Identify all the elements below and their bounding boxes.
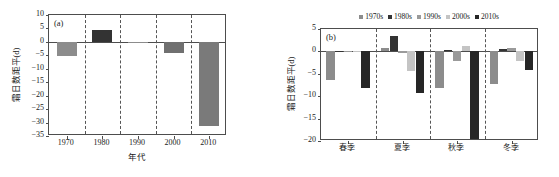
y-tick-label: −15 [294, 114, 316, 122]
bar-1980s-秋季 [444, 50, 452, 51]
bar-1990s-冬季 [507, 48, 515, 51]
legend-swatch-icon [446, 15, 450, 19]
x-tick-label: 1980 [84, 139, 120, 147]
x-tick-label: 春季 [320, 144, 375, 152]
panel-label-b: (b) [326, 32, 336, 42]
y-tick-label: −10 [22, 64, 44, 72]
category-separator [85, 15, 86, 134]
y-axis-label-b: 霜日数距平(d) [284, 28, 296, 140]
bar-2010s-冬季 [525, 51, 533, 70]
x-tick-label: 2000 [155, 139, 191, 147]
x-tick-label: 秋季 [429, 144, 484, 152]
bar-2000s-春季 [353, 51, 361, 52]
y-tick-label: 10 [22, 10, 44, 18]
plot-clip-a [49, 15, 225, 134]
y-tick-label: −30 [22, 118, 44, 126]
bar-2000 [164, 42, 184, 54]
category-separator [376, 29, 377, 139]
y-tick-label: −35 [22, 131, 44, 139]
bar-1980s-冬季 [499, 49, 507, 52]
legend-label: 1970s [365, 13, 383, 21]
chart-panel-b: 1970s1980s1990s2000s2010s 霜日数距平(d) (b) 5… [280, 0, 559, 177]
legend-item-2000s[interactable]: 2000s [446, 13, 470, 21]
y-tick-label: −5 [294, 69, 316, 77]
legend-swatch-icon [475, 15, 479, 19]
bar-2010s-秋季 [470, 51, 478, 139]
x-tick-label: 1990 [119, 139, 155, 147]
x-tick-label: 冬季 [484, 144, 539, 152]
y-tick-mark [318, 96, 321, 97]
bar-1970 [57, 42, 77, 57]
plot-area-b [320, 28, 538, 140]
bar-1970s-秋季 [435, 51, 443, 88]
legend-swatch-icon [388, 15, 392, 19]
legend-item-2010s[interactable]: 2010s [475, 13, 499, 21]
y-tick-mark [46, 42, 49, 43]
y-tick-mark [46, 96, 49, 97]
y-tick-label: −20 [294, 136, 316, 144]
bar-2010s-春季 [361, 51, 369, 88]
bar-1980 [92, 30, 112, 42]
x-tick-label: 2010 [190, 139, 226, 147]
y-tick-mark [46, 69, 49, 70]
plot-area-a [48, 14, 226, 135]
bar-1990s-秋季 [453, 51, 461, 60]
category-separator [485, 29, 486, 139]
legend-swatch-icon [417, 15, 421, 19]
bar-2000s-冬季 [516, 51, 524, 61]
y-tick-label: −25 [22, 104, 44, 112]
bar-1970s-夏季 [381, 48, 389, 52]
y-tick-mark [46, 123, 49, 124]
bar-2000s-夏季 [407, 51, 415, 70]
chart-panel-a: 霜日数距平(d) 年代 (a) 1050−5−10−15−20−25−30−35… [0, 0, 280, 177]
bar-1990s-春季 [344, 51, 352, 52]
bar-1990 [128, 42, 148, 44]
y-tick-mark [46, 82, 49, 83]
bar-1980s-春季 [335, 51, 343, 52]
legend-label: 2010s [481, 13, 499, 21]
legend-label: 2000s [452, 13, 470, 21]
y-tick-mark [46, 28, 49, 29]
bar-2010s-夏季 [416, 51, 424, 92]
legend-swatch-icon [359, 15, 363, 19]
y-tick-mark [318, 141, 321, 142]
legend-label: 1990s [423, 13, 441, 21]
x-axis-label-a: 年代 [48, 150, 226, 162]
bar-2000s-秋季 [462, 46, 470, 51]
y-tick-label: −20 [22, 91, 44, 99]
figure-root: 霜日数距平(d) 年代 (a) 1050−5−10−15−20−25−30−35… [0, 0, 559, 177]
y-tick-mark [318, 74, 321, 75]
y-tick-label: −10 [294, 91, 316, 99]
y-tick-mark [46, 109, 49, 110]
category-separator [120, 15, 121, 134]
category-separator [156, 15, 157, 134]
category-separator [430, 29, 431, 139]
bar-1980s-夏季 [390, 36, 398, 52]
y-tick-label: −15 [22, 77, 44, 85]
y-tick-mark [46, 55, 49, 56]
x-tick-label: 夏季 [375, 144, 430, 152]
y-tick-mark [46, 136, 49, 137]
y-tick-mark [46, 15, 49, 16]
legend-label: 1980s [394, 13, 412, 21]
legend-b: 1970s1980s1990s2000s2010s [320, 13, 538, 21]
bar-2010 [199, 42, 219, 126]
panel-label-a: (a) [54, 18, 63, 28]
y-tick-label: 0 [294, 46, 316, 54]
bar-1970s-冬季 [490, 51, 498, 83]
x-tick-label: 1970 [48, 139, 84, 147]
y-tick-mark [318, 51, 321, 52]
bar-1990s-夏季 [398, 51, 406, 52]
y-axis-label-a: 霜日数距平(d) [8, 14, 20, 135]
legend-item-1990s[interactable]: 1990s [417, 13, 441, 21]
plot-clip-b [321, 29, 537, 139]
bar-1970s-春季 [326, 51, 334, 79]
legend-item-1980s[interactable]: 1980s [388, 13, 412, 21]
y-tick-label: 0 [22, 37, 44, 45]
y-tick-label: 5 [294, 24, 316, 32]
category-separator [191, 15, 192, 134]
y-tick-label: −5 [22, 50, 44, 58]
legend-item-1970s[interactable]: 1970s [359, 13, 383, 21]
y-tick-mark [318, 29, 321, 30]
y-tick-label: 5 [22, 23, 44, 31]
